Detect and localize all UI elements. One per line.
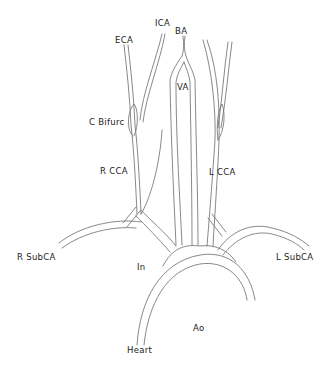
label-eca: ECA — [115, 35, 133, 45]
label-ba: BA — [175, 26, 187, 36]
label-va: VA — [177, 82, 189, 92]
label-r-subca: R SubCA — [17, 252, 56, 262]
vertebral-basilar — [170, 36, 198, 245]
label-l-subca: L SubCA — [276, 252, 313, 262]
right-carotid — [124, 34, 165, 214]
label-ica: ICA — [155, 18, 170, 28]
vessel-diagram: ECA ICA BA VA C Bifurc R CCA L CCA R Sub… — [0, 0, 335, 366]
right-subclavian-artery — [59, 207, 141, 248]
label-ao: Ao — [193, 323, 204, 333]
label-in: In — [137, 262, 146, 272]
label-heart: Heart — [127, 345, 152, 355]
innominate-artery — [136, 210, 176, 252]
label-r-cca: R CCA — [100, 166, 128, 176]
left-subclavian-artery — [208, 214, 309, 255]
label-l-cca: L CCA — [209, 167, 236, 177]
left-carotid — [203, 40, 232, 246]
label-c-bifurc: C Bifurc — [89, 117, 125, 127]
vessel-drawing — [0, 0, 335, 366]
